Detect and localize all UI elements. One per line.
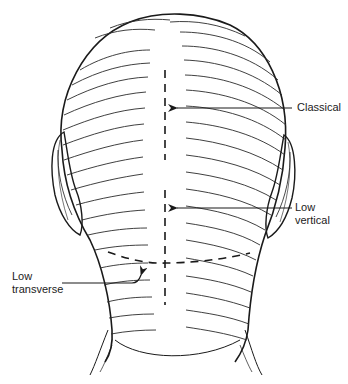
low-transverse-arrow: [62, 275, 141, 283]
low-vertical-text-2: vertical: [295, 214, 330, 227]
label-low-vertical: Low vertical: [295, 201, 330, 227]
low-transverse-text-2: transverse: [12, 283, 63, 296]
low-vertical-text-1: Low: [295, 201, 330, 214]
low-transverse-incision: [108, 252, 250, 263]
hair-strands-right: [170, 22, 286, 340]
low-transverse-text-1: Low: [12, 270, 63, 283]
classical-text: Classical: [297, 101, 341, 113]
label-classical: Classical: [297, 101, 341, 114]
head-diagram: [0, 0, 348, 384]
label-low-transverse: Low transverse: [12, 270, 63, 296]
